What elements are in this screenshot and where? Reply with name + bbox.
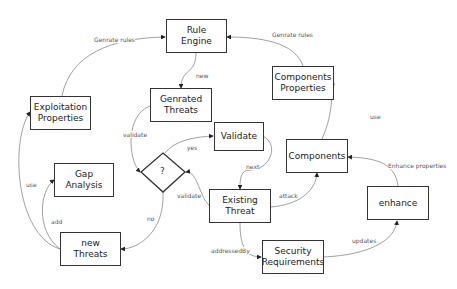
label-use-right: use [370,113,381,120]
label-validate-right: validate [177,192,201,199]
label-attack: attack [279,192,298,199]
node-rule-engine[interactable]: Rule Engine [166,19,227,53]
label-genrate-rules-left: Genrate rules [94,36,135,43]
label-add: add [51,218,62,225]
edge-validate-right [186,172,209,205]
edge-attack [270,173,317,207]
decision-label: ? [160,166,165,176]
node-existing-threat[interactable]: Existing Threat [209,189,271,223]
label-enhance-properties: Enhance properties [388,162,446,169]
label-use-left: use [26,181,37,188]
node-new-threats[interactable]: new Threats [60,232,121,266]
edge-genrate-rules-right [227,37,303,66]
node-gap-analysis[interactable]: Gap Analysis [54,163,114,197]
node-enhance[interactable]: enhance [367,186,429,220]
node-genrated-threats[interactable]: Genrated Threats [150,88,212,122]
edge-new [181,53,196,88]
node-components[interactable]: Components [286,139,348,173]
edge-no [121,192,163,249]
label-new: new [196,72,208,79]
label-updates: updates [352,237,376,244]
node-security-requirements[interactable]: Security Requirements [262,240,324,274]
label-next: next [246,163,259,170]
node-exploitation-properties[interactable]: Exploitation Properties [30,96,91,130]
edge-validate-left [131,106,150,172]
label-validate-left: validate [123,131,147,138]
node-components-properties[interactable]: Components Properties [272,66,334,100]
label-no: no [147,215,154,222]
node-validate[interactable]: Validate [214,122,264,151]
label-genrate-rules-right: Genrate rules [272,31,313,38]
label-yes: yes [187,144,197,151]
label-addressed-by: addressedBy [211,247,250,254]
